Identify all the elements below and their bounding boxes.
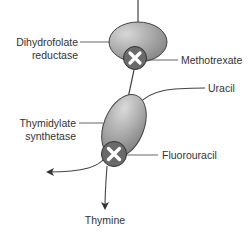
inhibit-x-icon xyxy=(102,142,127,167)
thymine-output-arrow xyxy=(105,166,107,208)
side-output-arrow xyxy=(48,152,107,172)
pathway-diagram xyxy=(0,0,252,232)
ts-label-line1: Thymidylate xyxy=(6,117,76,130)
inhibit-x-icon xyxy=(124,47,147,70)
fluorouracil-label: Fluorouracil xyxy=(162,149,217,162)
uracil-input-curve xyxy=(139,88,205,104)
dhfr-label: Dihydrofolate reductase xyxy=(10,36,78,62)
dhfr-label-line2: reductase xyxy=(10,49,78,62)
thymine-label: Thymine xyxy=(80,214,130,227)
uracil-label: Uracil xyxy=(208,82,235,95)
ts-label: Thymidylate synthetase xyxy=(6,117,76,143)
dhfr-label-line1: Dihydrofolate xyxy=(10,36,78,49)
ts-label-line2: synthetase xyxy=(6,130,76,143)
connecting-line xyxy=(128,70,134,98)
methotrexate-label: Methotrexate xyxy=(181,54,242,67)
